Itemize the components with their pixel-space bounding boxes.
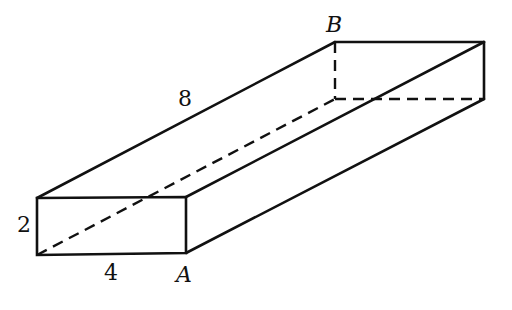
point-a-label: A <box>176 264 192 286</box>
rectangular-prism-diagram <box>0 0 512 310</box>
top-left-long-edge <box>37 42 335 198</box>
width-label: 4 <box>104 262 118 284</box>
height-label: 2 <box>17 214 31 236</box>
length-label: 8 <box>178 88 192 110</box>
bottom-right-long-edge <box>186 99 484 253</box>
point-b-label: B <box>326 14 342 36</box>
front-face <box>37 197 186 255</box>
